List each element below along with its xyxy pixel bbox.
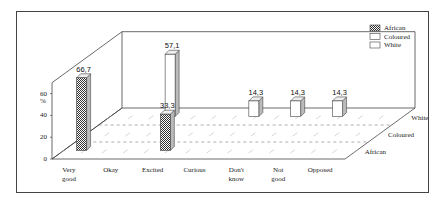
x-tick-label-line: Don't (229, 166, 244, 174)
bar-white (291, 101, 301, 117)
x-tick-label: Opposed (308, 166, 333, 174)
depth-label: African (365, 148, 387, 156)
bar-side (175, 50, 179, 116)
x-tick-label: Excited (142, 166, 164, 174)
legend-label: White (384, 41, 401, 49)
x-tick-label-line: Excited (142, 166, 164, 174)
bar-side (170, 110, 174, 150)
depth-label: White (411, 114, 428, 122)
data-label: 14,3 (290, 88, 305, 97)
y-tick-label: 0 (44, 155, 48, 163)
data-label: 66,7 (76, 65, 91, 74)
x-tick-label-line: good (62, 175, 77, 183)
x-tick-label-line: Not (273, 166, 284, 174)
data-label: 14,3 (249, 88, 264, 97)
x-tick-label-line: know (229, 175, 246, 183)
data-label: 14,3 (332, 88, 347, 97)
legend-label: Coloured (384, 33, 411, 41)
x-tick-label-line: Okay (103, 166, 119, 174)
legend-label: African (384, 24, 406, 32)
x-tick-label: Don'tknow (229, 166, 246, 183)
legend-swatch-coloured (370, 34, 380, 40)
bar-white (333, 101, 343, 117)
bar-white (249, 101, 259, 117)
x-tick-label: Okay (103, 166, 119, 174)
y-tick-label: 40 (40, 111, 48, 119)
bar-african (160, 114, 170, 150)
bar-side (87, 74, 91, 151)
x-tick-label-line: Opposed (308, 166, 333, 174)
bar-african (77, 78, 87, 151)
depth-label: Coloured (388, 131, 415, 139)
legend-swatch-white (370, 42, 380, 48)
x-tick-label-line: Curious (183, 166, 205, 174)
y-tick-label: 20 (40, 133, 48, 141)
data-label: 33,3 (160, 101, 175, 110)
data-label: 57,1 (165, 41, 180, 50)
legend-swatch-african (370, 25, 380, 31)
x-tick-label-line: Very (62, 166, 76, 174)
x-tick-label: Verygood (62, 166, 77, 183)
x-tick-label: Curious (183, 166, 205, 174)
y-axis-label: % (40, 97, 46, 105)
x-tick-label-line: good (271, 175, 286, 183)
bar-chart-3d: 0204060%WhiteColouredAfrican57,114,314,3… (0, 0, 444, 207)
